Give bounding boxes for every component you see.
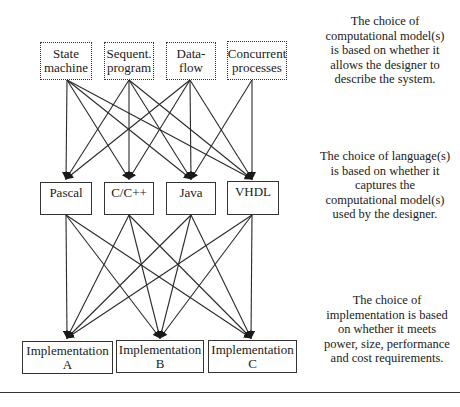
implementation-box-b: Implementation B xyxy=(116,340,204,373)
edge-vhdl-to-impl-c xyxy=(251,215,252,338)
edge-pascal-to-impl-b xyxy=(66,215,160,338)
model-label: State machine xyxy=(41,47,91,75)
note-languages: The choice of language(s) is based on wh… xyxy=(318,149,452,222)
language-label: VHDL xyxy=(235,185,271,199)
language-box-pascal: Pascal xyxy=(40,182,92,215)
edge-java-to-impl-c xyxy=(191,215,251,338)
language-box-c-cpp: C/C++ xyxy=(104,182,154,215)
edge-pascal-to-impl-a xyxy=(66,215,67,338)
edge-data-flow-to-java xyxy=(190,80,191,179)
language-box-java: Java xyxy=(166,182,216,215)
model-label: Concurrent processes xyxy=(228,47,286,75)
note-computational-models: The choice of computational model(s) is … xyxy=(322,14,448,87)
model-box-state-machine: State machine xyxy=(40,42,92,80)
model-label: Sequent. program xyxy=(105,47,153,75)
implementation-label: Implementation A xyxy=(23,344,112,372)
model-box-data-flow: Data- flow xyxy=(166,42,216,80)
edge-java-to-impl-a xyxy=(67,215,191,338)
edge-c-cpp-to-impl-c xyxy=(129,215,251,338)
edge-vhdl-to-impl-b xyxy=(160,215,252,338)
language-label: Pascal xyxy=(49,186,82,200)
model-box-sequent-program: Sequent. program xyxy=(104,42,154,80)
implementation-box-a: Implementation A xyxy=(22,341,113,374)
model-label: Data- flow xyxy=(167,47,215,75)
implementation-label: Implementation B xyxy=(117,343,203,371)
model-box-concurrent-processes: Concurrent processes xyxy=(227,41,287,80)
language-label: C/C++ xyxy=(111,186,147,200)
edge-java-to-impl-b xyxy=(160,215,191,338)
edge-c-cpp-to-impl-b xyxy=(129,215,160,338)
bottom-divider xyxy=(0,392,460,393)
edge-pascal-to-impl-c xyxy=(66,215,251,338)
edge-state-machine-to-pascal xyxy=(66,80,67,179)
note-implementations: The choice of implementation is based on… xyxy=(320,293,454,366)
edge-vhdl-to-impl-a xyxy=(67,215,252,338)
edge-data-flow-to-pascal xyxy=(66,80,190,179)
edge-c-cpp-to-impl-a xyxy=(67,215,129,338)
language-box-vhdl: VHDL xyxy=(227,181,279,215)
implementation-box-c: Implementation C xyxy=(208,340,297,373)
implementation-label: Implementation C xyxy=(209,343,296,371)
language-label: Java xyxy=(179,186,202,200)
